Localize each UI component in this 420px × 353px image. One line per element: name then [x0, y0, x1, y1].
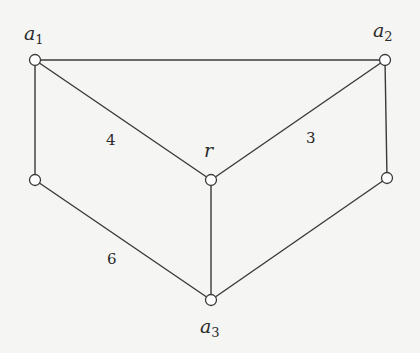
label-a2-sub: 2 — [384, 29, 392, 44]
node-b2 — [382, 173, 393, 184]
node-a2 — [380, 55, 391, 66]
label-a3-sub: 3 — [211, 325, 219, 340]
label-a1-main: a — [24, 22, 35, 44]
label-r-main: r — [204, 139, 215, 161]
label-a1: a1 — [24, 22, 44, 47]
node-r — [206, 175, 217, 186]
label-a3-main: a — [200, 315, 211, 337]
edge-b2-a3 — [211, 178, 387, 300]
weight-a1-r: 4 — [106, 131, 116, 149]
label-a2-main: a — [373, 19, 384, 41]
graph-diagram: a1 a2 r a3 4 3 6 — [0, 0, 420, 353]
graph-svg: a1 a2 r a3 4 3 6 — [0, 0, 420, 353]
weight-b1-a3: 6 — [107, 250, 117, 268]
edge-a2-b2 — [385, 60, 387, 178]
label-a3: a3 — [200, 315, 220, 340]
node-b1 — [30, 175, 41, 186]
label-r: r — [204, 139, 215, 161]
edge-a1-r — [35, 60, 211, 180]
label-a2: a2 — [373, 19, 393, 44]
weight-a2-r: 3 — [306, 129, 316, 147]
edge-b1-a3 — [35, 180, 211, 300]
node-a1 — [30, 55, 41, 66]
label-a1-sub: 1 — [35, 32, 43, 47]
node-a3 — [206, 295, 217, 306]
edge-a2-r — [211, 60, 385, 180]
